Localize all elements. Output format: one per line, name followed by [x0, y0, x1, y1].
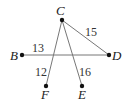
geometry-diagram: C B D F E 13 15 12 16 [0, 0, 124, 104]
label-b: B [10, 48, 18, 63]
label-f: F [40, 87, 50, 102]
label-c: C [56, 3, 65, 18]
label-d: D [111, 48, 122, 63]
length-cd: 15 [85, 25, 97, 39]
length-cf: 12 [35, 65, 47, 79]
point-c [60, 18, 64, 22]
label-e: E [77, 87, 86, 102]
segment-cf [46, 20, 62, 86]
length-bd: 13 [32, 41, 44, 55]
point-b [20, 53, 24, 57]
point-d [107, 53, 111, 57]
length-ce: 16 [79, 65, 91, 79]
